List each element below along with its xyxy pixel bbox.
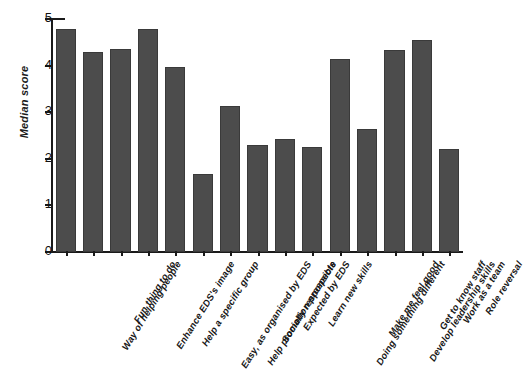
bar — [384, 50, 404, 252]
x-axis-label: Way of helping people — [119, 259, 183, 352]
x-axis-label: Help promotion prospects — [264, 259, 337, 367]
bar — [412, 40, 432, 252]
x-axis-label: Make me feel good — [385, 259, 440, 338]
bar — [330, 59, 350, 252]
x-axis-label: Doing something different — [374, 259, 447, 367]
x-axis-label: Expected by EDS — [300, 259, 352, 332]
y-axis-ticks: 012345 — [0, 0, 52, 374]
x-axis-tick — [148, 251, 150, 256]
bar — [83, 52, 103, 252]
x-axis-tick — [93, 251, 95, 256]
bar — [247, 145, 267, 252]
bar — [275, 139, 295, 252]
x-axis-label: Role reversal — [483, 259, 525, 317]
x-axis-label: Easy, as organised by EDS — [239, 259, 314, 370]
y-axis-tick-label-5: 5 — [26, 11, 52, 24]
y-axis-tick-label-1: 1 — [26, 197, 52, 210]
bar — [357, 129, 377, 252]
x-axis-label: Socially responsible — [279, 259, 338, 344]
x-axis-tick — [230, 251, 232, 256]
x-axis-label: Work as a team — [460, 259, 507, 325]
x-axis-tick — [312, 251, 314, 256]
y-axis-tick-label-2: 2 — [26, 151, 52, 164]
x-axis-tick — [422, 251, 424, 256]
x-axis-tick — [121, 251, 123, 256]
bar-series — [52, 0, 463, 252]
x-axis-tick — [175, 251, 177, 256]
x-axis-label: Learn new skills — [325, 259, 374, 328]
bar — [193, 174, 213, 252]
bar — [138, 29, 158, 252]
x-axis-tick — [340, 251, 342, 256]
x-axis-label: Help a specific group — [199, 259, 260, 348]
bar — [220, 106, 240, 252]
x-axis-tick — [367, 251, 369, 256]
x-axis-label: Develop leadership skills — [427, 259, 498, 363]
x-axis-tick — [66, 251, 68, 256]
x-axis-tick — [285, 251, 287, 256]
x-axis-tick — [395, 251, 397, 256]
x-axis-tick — [203, 251, 205, 256]
x-axis-tick — [258, 251, 260, 256]
x-axis-label: Enhance EDS's image — [173, 259, 236, 351]
bar — [439, 149, 459, 252]
y-axis-tick-label-4: 4 — [26, 58, 52, 71]
x-axis-label: Get to know staff — [436, 259, 487, 331]
y-axis-tick-label-0: 0 — [26, 244, 52, 257]
y-axis-tick-label-3: 3 — [26, 104, 52, 117]
x-axis-tick — [449, 251, 451, 256]
bar — [56, 29, 76, 252]
x-axis-label: Fun thing to do — [131, 259, 178, 325]
bar — [110, 49, 130, 252]
bar — [302, 147, 322, 252]
bar — [165, 67, 185, 252]
